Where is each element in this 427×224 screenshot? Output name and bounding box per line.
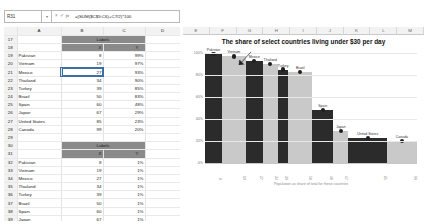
cell-country-37[interactable]: Brazil (17, 199, 61, 207)
cell-y-37[interactable]: 1% (103, 199, 145, 207)
cell-country-32[interactable]: Pakistan (17, 158, 61, 166)
chart-bar-japan[interactable]: Japan (333, 53, 348, 163)
row-header-31[interactable]: 31 (4, 150, 17, 158)
chart-bar-spain[interactable]: Spain (312, 53, 333, 163)
chart-bar-brazil[interactable]: Brazil (288, 53, 312, 163)
cell-x-24[interactable]: 50 (61, 93, 103, 101)
table-row[interactable]: 36Turkey391% (4, 191, 180, 199)
cell-country-23[interactable]: Turkey (17, 84, 61, 92)
cell-x-34[interactable]: 27 (61, 174, 103, 182)
row-header-17[interactable]: 17 (4, 35, 17, 43)
header-x[interactable]: X (61, 150, 103, 158)
cell-d23[interactable] (145, 84, 180, 92)
cell-country-21[interactable]: Mexico (17, 68, 61, 76)
column-header-m[interactable]: M (397, 27, 424, 34)
cell-x-37[interactable]: 50 (61, 199, 103, 207)
cell-x-20[interactable]: 19 (61, 60, 103, 68)
cell-y-29[interactable] (103, 133, 145, 141)
cell-y-20[interactable]: 97% (103, 60, 145, 68)
column-header-c[interactable]: C (103, 27, 145, 35)
cell-x-28[interactable]: 99 (61, 125, 103, 133)
cell-x-38[interactable]: 60 (61, 207, 103, 215)
cell-country-26[interactable]: Japan (17, 109, 61, 117)
table-row[interactable]: 26Japan6729% (4, 109, 180, 117)
chart-object[interactable]: The share of select countries living und… (185, 36, 422, 194)
cell-a18[interactable] (17, 43, 61, 51)
column-header-b[interactable]: B (61, 27, 103, 35)
cell-y-21[interactable]: 93% (103, 68, 145, 76)
table-row[interactable]: 31XY (4, 150, 180, 158)
cell-y-38[interactable]: 1% (103, 207, 145, 215)
cell-d31[interactable] (145, 150, 180, 158)
cell-d39[interactable] (145, 215, 180, 221)
labels-band-header[interactable]: Labels (61, 35, 145, 43)
cell-country-35[interactable]: Thailand (17, 183, 61, 191)
cell-a31[interactable] (17, 150, 61, 158)
cell-country-24[interactable]: Brazil (17, 93, 61, 101)
cell-d17[interactable] (145, 35, 180, 43)
cell-d35[interactable] (145, 183, 180, 191)
cell-d26[interactable] (145, 109, 180, 117)
cell-x-36[interactable]: 39 (61, 191, 103, 199)
cell-country-20[interactable]: Vietnam (17, 60, 61, 68)
cell-y-25[interactable]: 48% (103, 101, 145, 109)
table-row[interactable]: 37Brazil501% (4, 199, 180, 207)
table-row[interactable]: 33Vietnam191% (4, 166, 180, 174)
cell-d27[interactable] (145, 117, 180, 125)
table-row[interactable]: 29 (4, 133, 180, 141)
cell-d22[interactable] (145, 76, 180, 84)
table-row[interactable]: 18XY (4, 43, 180, 51)
table-row[interactable]: 39Japan671% (4, 215, 180, 221)
column-headers-right[interactable]: EFGHIJKLM (183, 27, 424, 35)
cell-x-22[interactable]: 34 (61, 76, 103, 84)
cell-x-33[interactable]: 19 (61, 166, 103, 174)
row-header-38[interactable]: 38 (4, 207, 17, 215)
table-row[interactable]: 28Canada9920% (4, 125, 180, 133)
row-header-27[interactable]: 27 (4, 117, 17, 125)
cell-d18[interactable] (145, 43, 180, 51)
cell-x-19[interactable]: 8 (61, 52, 103, 60)
cell-d33[interactable] (145, 166, 180, 174)
labels-band-header[interactable]: Labels (61, 142, 145, 150)
cell-y-28[interactable]: 20% (103, 125, 145, 133)
cell-x-39[interactable]: 67 (61, 215, 103, 221)
cell-x-27[interactable]: 85 (61, 117, 103, 125)
row-header-37[interactable]: 37 (4, 199, 17, 207)
row-header-24[interactable]: 24 (4, 93, 17, 101)
cell-country-39[interactable]: Japan (17, 215, 61, 221)
row-header-29[interactable]: 29 (4, 133, 17, 141)
cell-y-23[interactable]: 85% (103, 84, 145, 92)
cell-d36[interactable] (145, 191, 180, 199)
row-header-34[interactable]: 34 (4, 174, 17, 182)
cell-y-22[interactable]: 90% (103, 76, 145, 84)
formula-input[interactable]: =(SUM($C$5:C6)+C7/2)*100 (72, 10, 180, 23)
table-row[interactable]: 30Labels (4, 142, 180, 150)
cell-x-32[interactable]: 8 (61, 158, 103, 166)
cell-d32[interactable] (145, 158, 180, 166)
column-header-h[interactable]: H (263, 27, 290, 34)
column-header-k[interactable]: K (344, 27, 371, 34)
table-row[interactable]: 21Mexico2793% (4, 68, 180, 76)
cell-country-27[interactable]: United States (17, 117, 61, 125)
column-header-j[interactable]: J (317, 27, 344, 34)
cell-d30[interactable] (145, 142, 180, 150)
table-row[interactable]: 27United States8523% (4, 117, 180, 125)
row-header-33[interactable]: 33 (4, 166, 17, 174)
column-header-l[interactable]: L (370, 27, 397, 34)
chart-bar-united-states[interactable]: United States (348, 53, 387, 163)
cell-x-29[interactable] (61, 133, 103, 141)
column-header-a[interactable]: A (17, 27, 61, 35)
chart-bar-canada[interactable]: Canada (387, 53, 417, 163)
row-header-18[interactable]: 18 (4, 43, 17, 51)
header-y[interactable]: Y (103, 150, 145, 158)
cell-d29[interactable] (145, 133, 180, 141)
row-header-22[interactable]: 22 (4, 76, 17, 84)
row-header-19[interactable]: 19 (4, 52, 17, 60)
cell-d24[interactable] (145, 93, 180, 101)
table-row[interactable]: 24Brazil5083% (4, 93, 180, 101)
table-row[interactable]: 25Spain6048% (4, 101, 180, 109)
cancel-formula-icon[interactable]: × (55, 14, 58, 19)
cell-country-19[interactable]: Pakistan (17, 52, 61, 60)
insert-function-icon[interactable]: fx (66, 14, 69, 19)
cell-d28[interactable] (145, 125, 180, 133)
